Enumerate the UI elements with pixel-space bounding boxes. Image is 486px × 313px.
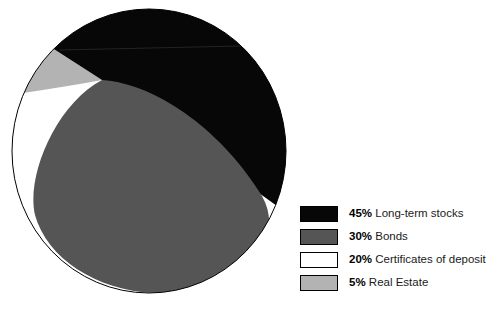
legend-item-real-estate[interactable]: 5% Real Estate bbox=[300, 272, 486, 294]
legend-text-real-estate: 5% Real Estate bbox=[349, 277, 428, 289]
legend-percent-real-estate: 5% bbox=[349, 276, 366, 288]
legend-label-bonds: Bonds bbox=[375, 230, 408, 242]
legend-percent-bonds: 30% bbox=[349, 230, 372, 242]
legend-text-bonds: 30% Bonds bbox=[349, 231, 408, 243]
pie-chart-figure: 45% Long-term stocks 30% Bonds 20% Certi… bbox=[0, 0, 486, 313]
legend-text-certificates-of-deposit: 20% Certificates of deposit bbox=[349, 254, 486, 266]
legend-text-long-term-stocks: 45% Long-term stocks bbox=[349, 208, 463, 220]
legend: 45% Long-term stocks 30% Bonds 20% Certi… bbox=[300, 203, 486, 295]
legend-label-certificates-of-deposit: Certificates of deposit bbox=[375, 253, 486, 265]
legend-swatch-bonds bbox=[300, 229, 338, 245]
legend-item-certificates-of-deposit[interactable]: 20% Certificates of deposit bbox=[300, 249, 486, 271]
legend-swatch-certificates-of-deposit bbox=[300, 252, 338, 268]
legend-item-bonds[interactable]: 30% Bonds bbox=[300, 226, 486, 248]
legend-label-real-estate: Real Estate bbox=[369, 276, 428, 288]
legend-item-long-term-stocks[interactable]: 45% Long-term stocks bbox=[300, 203, 486, 225]
legend-percent-long-term-stocks: 45% bbox=[349, 207, 372, 219]
legend-label-long-term-stocks: Long-term stocks bbox=[375, 207, 463, 219]
legend-swatch-long-term-stocks bbox=[300, 206, 338, 222]
pie-chart-graphic bbox=[0, 0, 300, 313]
legend-swatch-real-estate bbox=[300, 275, 338, 291]
pie-svg bbox=[0, 0, 300, 313]
legend-percent-certificates-of-deposit: 20% bbox=[349, 253, 372, 265]
